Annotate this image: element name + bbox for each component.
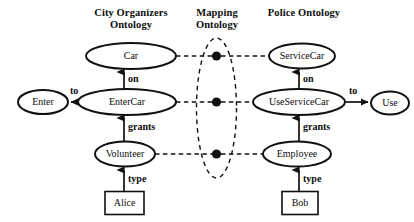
heading-city-organizers-ontology: City Organizers Ontology	[76, 7, 186, 30]
edge-label-type-left: type	[128, 174, 146, 184]
edge-label-to-left: to	[70, 86, 78, 96]
edge-label-to-right: to	[349, 86, 357, 96]
edge-label-type-right: type	[303, 174, 321, 184]
mapping-point-volunteer-employee	[212, 149, 221, 158]
heading-mapping-ontology: Mapping Ontology	[180, 7, 254, 30]
node-label-employee: Employee	[267, 149, 327, 159]
node-label-useservicecar: UseServiceCar	[258, 97, 340, 107]
instance-label-bob: Bob	[282, 198, 318, 208]
ontology-mapping-diagram: Car --> EnterCar --> Volunteer --> Enter…	[0, 0, 414, 222]
heading-police-ontology: Police Ontology	[252, 7, 356, 19]
edge-label-grants-left: grants	[128, 122, 155, 132]
node-label-servicecar: ServiceCar	[272, 51, 332, 61]
edge-label-on-left: on	[128, 74, 139, 84]
edge-label-on-right: on	[303, 74, 314, 84]
node-label-entercar: EnterCar	[92, 97, 162, 107]
mapping-point-entercar-useservicecar	[212, 97, 221, 106]
diagram-canvas: Car --> EnterCar --> Volunteer --> Enter…	[0, 0, 414, 222]
node-label-car: Car	[106, 51, 156, 61]
edge-label-grants-right: grants	[303, 122, 330, 132]
mapping-point-car-servicecar	[212, 51, 221, 60]
node-label-use: Use	[371, 98, 409, 108]
node-label-enter: Enter	[18, 97, 68, 107]
node-label-volunteer: Volunteer	[95, 149, 155, 159]
instance-label-alice: Alice	[105, 198, 144, 208]
